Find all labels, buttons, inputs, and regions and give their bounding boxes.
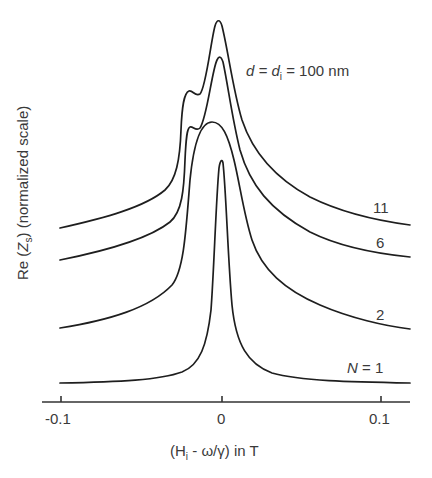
curve-label-6: 6 [376, 234, 384, 251]
xlabel-pre: (H [170, 442, 186, 459]
tick-label-0: 0 [217, 410, 225, 427]
y-axis-label: Re (Zs) (normalized scale) [14, 106, 34, 280]
annotation-prefix: d = d [246, 62, 280, 79]
tick-label-minus-0.1: -0.1 [45, 410, 71, 427]
curve-label-2: 2 [376, 306, 384, 323]
ylabel-pre: Re ( [14, 252, 31, 280]
curve-n1 [60, 161, 410, 383]
curve-label-1: N = 1 [347, 359, 383, 376]
thickness-annotation: d = di = 100 nm [246, 62, 349, 82]
curve-label-11: 11 [373, 199, 389, 216]
ylabel-post: ) (normalized scale) [14, 106, 31, 238]
ylabel-z: Z [14, 242, 31, 251]
x-axis-label: (Hi - ω/γ) in T [170, 442, 259, 462]
xlabel-post: - ω/γ) in T [188, 442, 259, 459]
curve-n2 [60, 122, 410, 329]
ylabel-sub: s [23, 237, 34, 242]
annotation-suffix: = 100 nm [282, 62, 349, 79]
plot-canvas [0, 0, 432, 478]
tick-label-0.1: 0.1 [369, 410, 390, 427]
